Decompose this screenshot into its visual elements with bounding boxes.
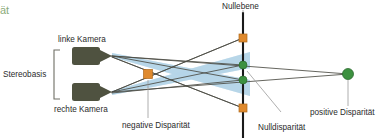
cut-title-fragment: ät xyxy=(0,4,9,16)
stereobasis-bracket xyxy=(54,50,60,99)
label-stereobasis: Stereobasis xyxy=(3,70,46,79)
frustum-overlap-region xyxy=(112,52,250,96)
label-nullebene: Nullebene xyxy=(222,2,259,11)
label-positive-disparity: positive Disparität xyxy=(310,108,375,117)
plane-negative-bottom-square xyxy=(239,104,247,112)
frustum-overlap-group xyxy=(112,52,250,96)
negative-disparity-square xyxy=(144,70,153,79)
right-camera-icon xyxy=(72,83,112,101)
positive-disparity-dot xyxy=(343,69,354,80)
diagram-canvas: ät Stereobasis linke Kamera rechte Kamer… xyxy=(0,0,392,138)
plane-negative-top-square xyxy=(239,34,247,42)
left-camera-icon xyxy=(72,47,112,65)
label-left-camera: linke Kamera xyxy=(58,35,106,44)
label-right-camera: rechte Kamera xyxy=(54,105,108,114)
zero-disparity-dot-upper xyxy=(239,61,247,69)
leader-zero-disparity xyxy=(247,71,281,112)
label-negative-disparity: negative Disparität xyxy=(122,121,191,130)
zero-disparity-dot-lower xyxy=(239,76,247,84)
stereo-disparity-figure: ät Stereobasis linke Kamera rechte Kamer… xyxy=(0,0,392,138)
label-nulldisparitaet: Nulldisparität xyxy=(258,123,306,132)
